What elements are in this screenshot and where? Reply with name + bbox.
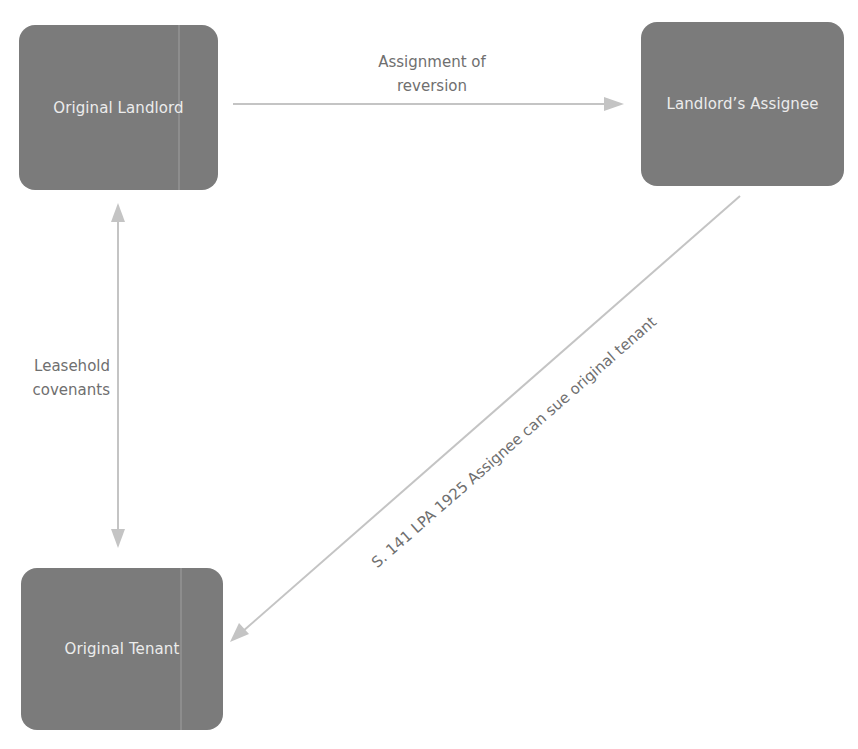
edge-label-leasehold-covenants: Leasehold covenants bbox=[10, 354, 110, 402]
node-label: Original Landlord bbox=[53, 99, 184, 117]
node-label: Landlord’s Assignee bbox=[666, 95, 818, 113]
node-label: Original Tenant bbox=[65, 640, 180, 658]
node-stripe bbox=[180, 568, 182, 730]
node-original-tenant: Original Tenant bbox=[21, 568, 223, 730]
node-original-landlord: Original Landlord bbox=[19, 25, 218, 190]
arrowhead-down-left-icon bbox=[230, 623, 249, 642]
edge-label-line: covenants bbox=[10, 378, 110, 402]
edge-label-line: Leasehold bbox=[10, 354, 110, 378]
edge-label-assignment-of-reversion: Assignment of reversion bbox=[332, 50, 532, 98]
arrowhead-up-icon bbox=[111, 203, 125, 222]
arrowhead-down-icon bbox=[111, 529, 125, 548]
edge-label-line: reversion bbox=[332, 74, 532, 98]
arrow-s141 bbox=[230, 196, 740, 642]
node-landlords-assignee: Landlord’s Assignee bbox=[641, 22, 844, 186]
edge-label-line: Assignment of bbox=[332, 50, 532, 74]
arrow-leasehold-covenants bbox=[111, 203, 125, 548]
arrow-assignment-of-reversion bbox=[233, 97, 624, 111]
arrowhead-right-icon bbox=[604, 97, 624, 111]
